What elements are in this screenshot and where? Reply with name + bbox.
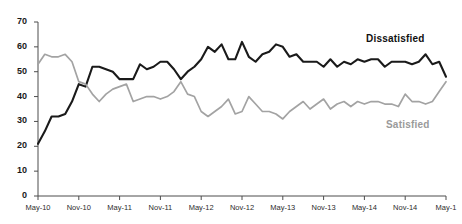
y-axis-tick-label: 70 — [5, 16, 27, 26]
x-axis-tick-label: May-12 — [178, 203, 224, 212]
x-axis-tick-label: May-1 — [423, 203, 462, 212]
series-line-dissatisfied — [38, 42, 446, 144]
x-axis-tick-label: May-14 — [341, 203, 387, 212]
x-axis-tick-label: Nov-14 — [382, 203, 428, 212]
y-axis-tick-label: 20 — [5, 140, 27, 150]
y-axis-tick-label: 60 — [5, 41, 27, 51]
y-axis-tick-label: 50 — [5, 66, 27, 76]
y-axis-tick-label: 10 — [5, 165, 27, 175]
series-line-satisfied — [38, 54, 446, 119]
series-label-satisfied: Satisfied — [386, 119, 429, 130]
x-axis-tick-label: Nov-11 — [137, 203, 183, 212]
series-label-dissatisfied: Dissatisfied — [366, 33, 425, 44]
x-axis-tick-label: May-13 — [260, 203, 306, 212]
x-axis-tick-label: May-10 — [15, 203, 61, 212]
chart-series-lines — [38, 42, 446, 144]
line-chart: 010203040506070 May-10Nov-10May-11Nov-11… — [0, 0, 462, 224]
x-axis-tick-label: Nov-13 — [301, 203, 347, 212]
x-axis-tick-label: May-11 — [97, 203, 143, 212]
x-axis-tick-label: Nov-10 — [56, 203, 102, 212]
y-axis-tick-label: 30 — [5, 115, 27, 125]
y-axis-tick-label: 40 — [5, 91, 27, 101]
y-axis-tick-label: 0 — [5, 190, 27, 200]
x-axis-tick-label: Nov-12 — [219, 203, 265, 212]
